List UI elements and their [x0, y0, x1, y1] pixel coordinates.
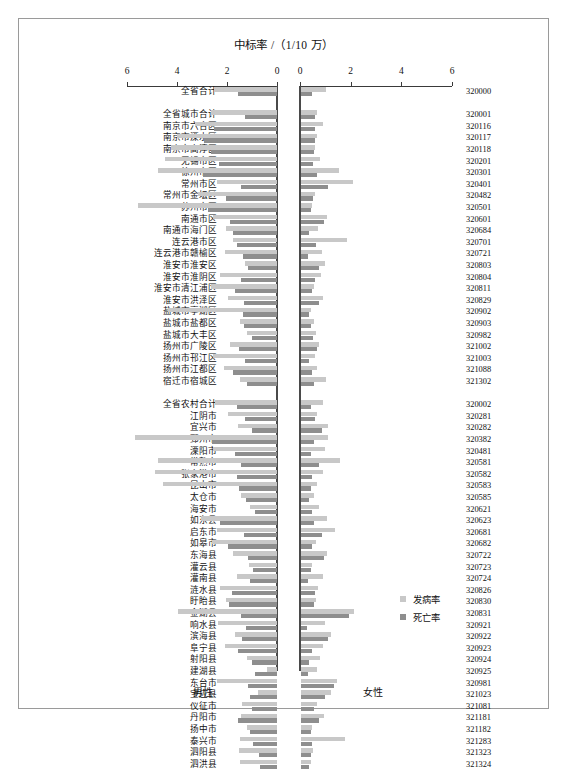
female-mortality-bar [301, 707, 314, 711]
female-mortality-bar [301, 382, 314, 386]
male-incidence-bar [224, 366, 277, 370]
legend-label-incidence: 发病率 [413, 592, 440, 606]
male-mortality-bar [248, 556, 278, 560]
male-incidence-bar [226, 598, 277, 602]
female-incidence-bar [301, 250, 322, 254]
chart-row: 常州市金坛区320482 [0, 190, 567, 202]
male-mortality-bar [243, 312, 278, 316]
row-label: 连云港市赣榆区 [55, 248, 217, 260]
male-incidence-bar [213, 447, 277, 451]
row-label: 扬州市邗江区 [55, 353, 217, 365]
male-incidence-bar [225, 644, 278, 648]
female-incidence-bar [301, 424, 328, 428]
left-tick-label: 0 [275, 66, 280, 76]
female-incidence-bar [301, 331, 316, 335]
female-incidence-bar [301, 540, 316, 544]
row-label: 滨海县 [55, 631, 217, 643]
row-label: 扬州市广陵区 [55, 341, 217, 353]
chart-row: 响水县320921 [0, 620, 567, 632]
row-code: 320401 [466, 179, 491, 191]
male-incidence-bar [245, 261, 277, 265]
male-mortality-bar [250, 695, 277, 699]
female-incidence-bar [301, 157, 320, 161]
female-incidence-bar [301, 377, 326, 381]
male-incidence-bar [214, 87, 277, 91]
female-incidence-bar [301, 87, 326, 91]
chart-row: 灌云县320723 [0, 562, 567, 574]
row-label: 泗洪县 [55, 759, 217, 770]
male-mortality-bar [250, 730, 278, 734]
chart-row: 全省城市合计320001 [0, 109, 567, 121]
row-code: 320724 [466, 573, 491, 585]
chart-row: 南通市海门区320684 [0, 225, 567, 237]
female-incidence-bar [301, 563, 312, 567]
chart-row: 滨海县320922 [0, 631, 567, 643]
female-mortality-bar [301, 359, 309, 363]
female-mortality-bar [301, 417, 315, 421]
female-incidence-bar [301, 528, 335, 532]
chart-row: 射阳县320924 [0, 654, 567, 666]
male-mortality-bar [235, 452, 278, 456]
row-code: 320281 [466, 411, 491, 423]
male-mortality-bar [237, 243, 278, 247]
row-code: 320723 [466, 562, 491, 574]
male-incidence-bar [217, 528, 278, 532]
row-code: 321181 [466, 712, 491, 724]
chart-row: 启东市320681 [0, 527, 567, 539]
female-mortality-bar [301, 486, 311, 490]
female-incidence-bar [301, 574, 323, 578]
male-mortality-bar [246, 498, 277, 502]
female-incidence-bar [301, 122, 323, 126]
male-incidence-bar [158, 458, 277, 462]
female-mortality-bar [301, 614, 349, 618]
female-incidence-bar [301, 226, 318, 230]
male-mortality-bar [214, 127, 277, 131]
male-incidence-bar [211, 284, 277, 288]
male-mortality-bar [229, 602, 277, 606]
chart-row: 扬州市广陵区321002 [0, 341, 567, 353]
male-incidence-bar [237, 574, 277, 578]
female-incidence-bar [301, 284, 314, 288]
female-mortality-bar [301, 556, 324, 560]
chart-row: 淮安市淮阴区320804 [0, 272, 567, 284]
female-mortality-bar [301, 173, 317, 177]
female-mortality-bar [301, 753, 311, 757]
female-incidence-bar [301, 168, 339, 172]
chart-row: 扬州市江都区321088 [0, 364, 567, 376]
chart-row: 泗洪县321324 [0, 759, 567, 770]
male-mortality-bar [244, 533, 277, 537]
row-code: 320982 [466, 330, 491, 342]
male-incidence-bar [218, 621, 277, 625]
female-mortality-bar [301, 278, 315, 282]
row-label: 盐城市大丰区 [55, 330, 217, 342]
chart-row: 溧阳市320481 [0, 446, 567, 458]
row-label: 灌南县 [55, 573, 217, 585]
male-mortality-bar [246, 626, 277, 630]
male-mortality-bar [228, 544, 277, 548]
female-mortality-bar [301, 718, 319, 722]
male-mortality-bar [248, 684, 278, 688]
row-label: 泰兴市 [55, 736, 217, 748]
female-incidence-bar [301, 644, 323, 648]
chart-row: 盱眙县320830 [0, 596, 567, 608]
row-label: 扬中市 [55, 724, 217, 736]
male-mortality-bar [253, 568, 277, 572]
row-code: 320981 [466, 678, 491, 690]
row-code: 320902 [466, 306, 491, 318]
male-mortality-bar [233, 370, 277, 374]
chart-row: 扬州市邗江区321003 [0, 353, 567, 365]
male-incidence-bar [165, 157, 278, 161]
row-code: 320583 [466, 480, 491, 492]
male-incidence-bar [220, 273, 277, 277]
female-incidence-bar [301, 412, 317, 416]
row-code: 320924 [466, 654, 491, 666]
chart-row: 泗阳县321323 [0, 747, 567, 759]
female-incidence-bar [301, 598, 316, 602]
male-mortality-bar [242, 637, 278, 641]
male-incidence-bar [226, 226, 277, 230]
female-incidence-bar [301, 203, 312, 207]
male-mortality-bar [239, 347, 277, 351]
male-mortality-bar [237, 475, 278, 479]
female-mortality-bar [301, 428, 322, 432]
chart-row: 扬中市321182 [0, 724, 567, 736]
